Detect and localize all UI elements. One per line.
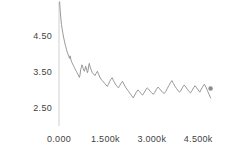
chart-plot-area bbox=[0, 0, 228, 154]
line-chart: 4.503.502.50 0.0001.500k3.000k4.500k bbox=[0, 0, 228, 154]
y-tick-label: 4.50 bbox=[33, 31, 52, 41]
x-tick-label: 3.000k bbox=[137, 134, 166, 144]
x-tick-label: 1.500k bbox=[91, 134, 120, 144]
data-series-line bbox=[60, 2, 211, 98]
y-tick-label: 3.50 bbox=[33, 67, 52, 77]
series-endpoint-marker bbox=[208, 86, 212, 90]
y-tick-label: 2.50 bbox=[33, 103, 52, 113]
x-tick-label: 4.500k bbox=[184, 134, 213, 144]
x-tick-label: 0.000 bbox=[47, 134, 71, 144]
